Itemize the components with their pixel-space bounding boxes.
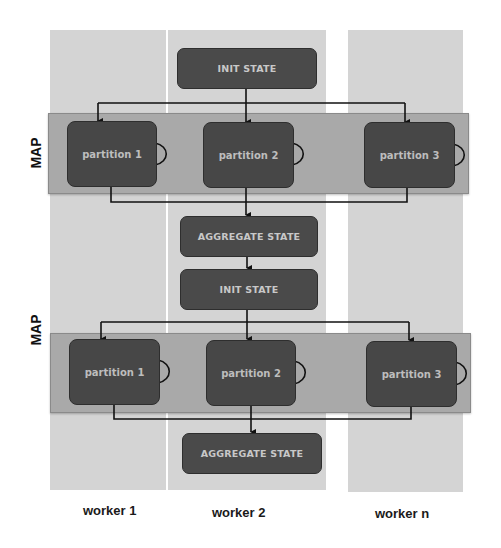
init-state-node-1: INIT STATE: [177, 48, 317, 89]
worker-label-2: worker 2: [212, 505, 265, 520]
map1-partition-2: partition 2: [203, 122, 294, 188]
init-state-node-2: INIT STATE: [180, 269, 318, 310]
map2-partition-1: partition 1: [69, 339, 160, 405]
aggregate-state-node-1: AGGREGATE STATE: [180, 216, 318, 257]
worker-label-1: worker 1: [83, 503, 136, 518]
aggregate-state-node-2: AGGREGATE STATE: [182, 433, 322, 474]
map2-partition-2: partition 2: [206, 340, 296, 406]
map2-partition-3: partition 3: [366, 341, 457, 407]
map1-partition-3: partition 3: [364, 122, 455, 188]
worker-label-n: worker n: [375, 506, 429, 521]
map1-partition-1: partition 1: [67, 121, 157, 187]
